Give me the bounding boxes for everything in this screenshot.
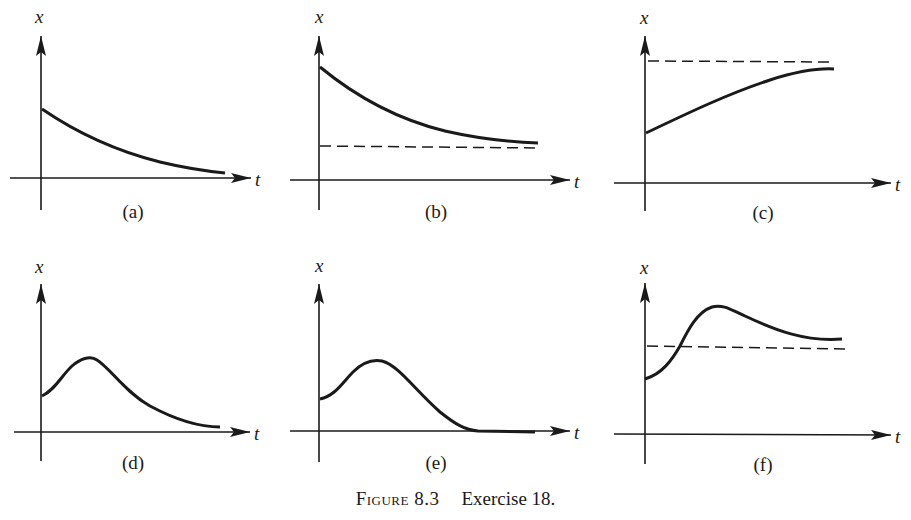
t-axis-arrow: [614, 434, 891, 435]
panel-label-e: (e): [425, 452, 446, 474]
panel-label-d: (d): [122, 452, 144, 474]
solution-curve: [645, 306, 842, 379]
t-axis-label-d: t: [254, 423, 260, 444]
x-axis-label-b: x: [314, 6, 324, 27]
solution-curve: [320, 360, 535, 432]
panel-b: [290, 36, 570, 210]
panel-label-f: (f): [754, 454, 773, 476]
panel-e: [290, 284, 570, 462]
panel-label-c: (c): [752, 202, 773, 224]
dashed-asymptote: [648, 61, 834, 62]
panel-d: [14, 284, 250, 461]
figure-caption-text: Exercise 18.: [461, 488, 555, 509]
x-axis-label-d: x: [34, 256, 44, 277]
figure-caption: Figure 8.3Exercise 18.: [0, 488, 911, 510]
panel-c: [614, 36, 891, 211]
x-axis-label-c: x: [639, 7, 649, 28]
t-axis-label-b: t: [574, 171, 580, 192]
t-axis-label-e: t: [574, 422, 580, 443]
figure-8-3: x x x x x x t t t t t t (a) (b) (c) (d) …: [0, 0, 911, 520]
t-axis-label-a: t: [255, 169, 261, 190]
x-axis-label-f: x: [639, 257, 649, 278]
panel-label-b: (b): [425, 201, 447, 223]
panel-a: [10, 36, 251, 210]
figure-number: Figure 8.3: [356, 488, 440, 509]
t-axis-label-f: t: [895, 426, 901, 447]
solution-curve: [320, 67, 538, 143]
dashed-asymptote: [320, 146, 538, 148]
panel-label-a: (a): [122, 201, 143, 223]
x-axis-label-a: x: [34, 6, 44, 27]
solution-curve: [42, 358, 220, 427]
solution-curve: [42, 109, 225, 173]
x-axis-label-e: x: [314, 255, 324, 276]
t-axis-label-c: t: [895, 174, 901, 195]
solution-curve: [646, 69, 834, 133]
panel-f: [614, 283, 891, 464]
